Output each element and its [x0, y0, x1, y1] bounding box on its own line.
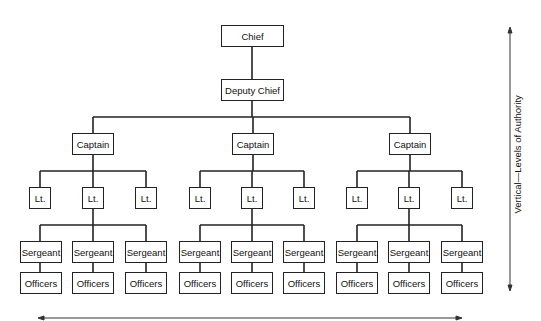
sergeant-label: Sergeant [285, 247, 324, 258]
officers-label: Officers [25, 278, 58, 289]
sergeant-label: Sergeant [443, 247, 482, 258]
lieutenant-label: Lt. [352, 193, 363, 204]
sergeant-label: Sergeant [338, 247, 377, 258]
officers-box: Officers [283, 272, 325, 294]
sergeant-label: Sergeant [181, 247, 220, 258]
captain-label: Captain [77, 139, 110, 150]
deputy-chief-box: Deputy Chief [221, 79, 284, 101]
officers-label: Officers [184, 278, 217, 289]
chief-box: Chief [221, 25, 284, 47]
sergeant-box: Sergeant [231, 241, 273, 263]
sergeant-box: Sergeant [20, 241, 62, 263]
sergeant-box: Sergeant [441, 241, 483, 263]
officers-label: Officers [236, 278, 269, 289]
lieutenant-box: Lt. [346, 187, 368, 209]
officers-box: Officers [231, 272, 273, 294]
horizontal-arrow [38, 316, 462, 320]
officers-label: Officers [446, 278, 479, 289]
officers-label: Officers [341, 278, 374, 289]
lieutenant-box: Lt. [135, 187, 157, 209]
chief-label: Chief [241, 31, 263, 42]
sergeant-box: Sergeant [72, 241, 114, 263]
officers-box: Officers [388, 272, 430, 294]
officers-label: Officers [77, 278, 110, 289]
lieutenant-label: Lt. [299, 193, 310, 204]
officers-label: Officers [393, 278, 426, 289]
sergeant-box: Sergeant [336, 241, 378, 263]
lieutenant-label: Lt. [247, 193, 258, 204]
captain-box: Captain [72, 133, 114, 155]
captain-box: Captain [232, 133, 274, 155]
sergeant-box: Sergeant [125, 241, 167, 263]
captain-label: Captain [394, 139, 427, 150]
lieutenant-label: Lt. [404, 193, 415, 204]
sergeant-label: Sergeant [22, 247, 61, 258]
sergeant-label: Sergeant [127, 247, 166, 258]
sergeant-box: Sergeant [388, 241, 430, 263]
officers-label: Officers [130, 278, 163, 289]
lieutenant-label: Lt. [35, 193, 46, 204]
sergeant-label: Sergeant [390, 247, 429, 258]
captain-box: Captain [389, 133, 431, 155]
lieutenant-box: Lt. [241, 187, 263, 209]
lieutenant-box: Lt. [293, 187, 315, 209]
officers-box: Officers [72, 272, 114, 294]
sergeant-box: Sergeant [283, 241, 325, 263]
lieutenant-box: Lt. [29, 187, 51, 209]
sergeant-label: Sergeant [233, 247, 272, 258]
sergeant-box: Sergeant [179, 241, 221, 263]
officers-box: Officers [441, 272, 483, 294]
lieutenant-label: Lt. [141, 193, 152, 204]
deputy-chief-label: Deputy Chief [225, 85, 280, 96]
sergeant-label: Sergeant [74, 247, 113, 258]
officers-box: Officers [20, 272, 62, 294]
officers-box: Officers [179, 272, 221, 294]
vertical-axis-label: Vertical—Levels of Authority [512, 104, 523, 214]
lieutenant-box: Lt. [398, 187, 420, 209]
lieutenant-box: Lt. [189, 187, 211, 209]
lieutenant-label: Lt. [88, 193, 99, 204]
lieutenant-label: Lt. [195, 193, 206, 204]
lieutenant-label: Lt. [457, 193, 468, 204]
lieutenant-box: Lt. [82, 187, 104, 209]
lieutenant-box: Lt. [451, 187, 473, 209]
officers-label: Officers [288, 278, 321, 289]
captain-label: Captain [237, 139, 270, 150]
officers-box: Officers [125, 272, 167, 294]
officers-box: Officers [336, 272, 378, 294]
